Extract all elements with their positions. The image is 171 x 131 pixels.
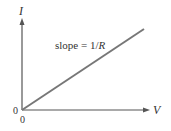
origin-y-label: 0 [13, 105, 18, 116]
x-axis-label: V [153, 103, 162, 117]
slope-label: slope = 1/R [55, 39, 105, 51]
iv-diagram: I V 0 0 slope = 1/R [0, 0, 171, 131]
x-axis-arrow-icon [143, 108, 150, 113]
x-axis [22, 108, 150, 113]
y-axis-label: I [18, 4, 24, 18]
origin-x-label: 0 [20, 114, 25, 125]
y-axis [20, 18, 25, 110]
y-axis-arrow-icon [20, 18, 25, 25]
